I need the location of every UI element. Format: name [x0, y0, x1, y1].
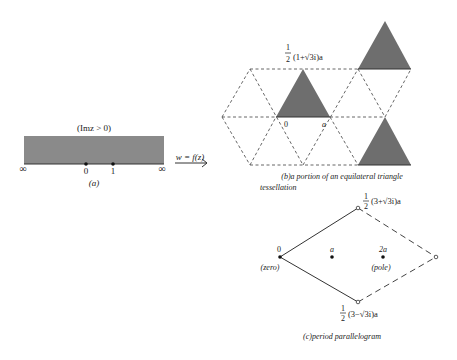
- top-vertex: [356, 206, 360, 210]
- point-2a: [381, 255, 385, 259]
- a-label: a: [330, 245, 334, 254]
- upper-half-plane-region: [24, 136, 164, 164]
- bottom-vertex-label: 1 2 (3−√3i)a: [340, 304, 378, 323]
- region-label: (Imz > 0): [77, 123, 111, 133]
- panel-b: 1 2 (1+√3i)a 0 a (b)a portion of an equi…: [222, 21, 411, 192]
- pole-note: (pole): [371, 263, 390, 272]
- figure-canvas: (Imz > 0) ∞ ∞ 0 1 (a) w = f(z): [0, 0, 457, 360]
- svg-text:2: 2: [341, 314, 345, 323]
- zero-label: 0: [84, 166, 89, 176]
- a-label: a: [322, 120, 326, 129]
- zero-label: 0: [277, 245, 281, 254]
- edge-left-bottom: [280, 257, 358, 302]
- svg-text:2: 2: [286, 55, 290, 64]
- svg-text:1: 1: [341, 304, 345, 313]
- point-a: [330, 255, 334, 259]
- shaded-triangle-bottom: [358, 117, 411, 165]
- panel-c: 1 2 (3+√3i)a 1 2 (3−√3i)a 0 (zero) a 2a …: [261, 192, 438, 341]
- svg-text:(3+√3i)a: (3+√3i)a: [371, 196, 401, 206]
- panel-a: (Imz > 0) ∞ ∞ 0 1 (a) w = f(z): [19, 123, 207, 188]
- svg-text:2: 2: [364, 202, 368, 211]
- top-vertex-label: 1 2 (3+√3i)a: [363, 192, 401, 211]
- right-vertex: [434, 255, 438, 259]
- caption-b-line1: (b)a portion of an equilateral triangle: [281, 172, 403, 181]
- origin-label: 0: [284, 120, 288, 129]
- edge-right-bottom: [358, 257, 436, 302]
- svg-text:1: 1: [286, 43, 290, 52]
- shaded-triangle-top: [358, 21, 411, 69]
- map-label: w = f(z): [176, 152, 205, 162]
- bottom-vertex: [356, 300, 360, 304]
- edge-right-top: [358, 208, 436, 257]
- svg-text:(1+√3i)a: (1+√3i)a: [293, 52, 323, 62]
- edge-left-top: [280, 208, 358, 257]
- left-infinity-label: ∞: [19, 163, 26, 174]
- caption-c: (c)period parallelogram: [303, 332, 381, 341]
- zero-point: [278, 255, 282, 259]
- two-a-label: 2a: [379, 245, 387, 254]
- right-infinity-label: ∞: [158, 163, 165, 174]
- caption-a: (a): [89, 178, 100, 188]
- one-label: 1: [111, 166, 116, 176]
- svg-text:1: 1: [364, 192, 368, 201]
- vertex-label-top: 1 2 (1+√3i)a: [285, 43, 323, 64]
- shaded-triangle-middle: [276, 69, 330, 117]
- svg-text:(3−√3i)a: (3−√3i)a: [348, 309, 378, 319]
- zero-note: (zero): [261, 263, 280, 272]
- caption-b-line2: tessellation: [260, 183, 296, 192]
